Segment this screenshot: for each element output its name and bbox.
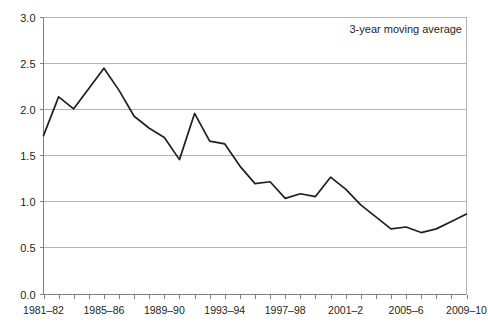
chart-background [0, 0, 488, 330]
y-axis-label-2.0: 2.0 [20, 104, 35, 116]
x-axis-label-2009–10: 2009–10 [446, 304, 487, 316]
y-axis-label-1.0: 1.0 [20, 196, 35, 208]
x-axis-label-2001–2: 2001–2 [328, 304, 363, 316]
y-axis-label-2.5: 2.5 [20, 58, 35, 70]
chart-container: 0.00.51.01.52.02.53.0 1981–821985–861989… [0, 0, 488, 330]
x-axis-label-1993–94: 1993–94 [204, 304, 245, 316]
y-axis-label-3.0: 3.0 [20, 12, 35, 24]
x-axis-label-1997–98: 1997–98 [265, 304, 306, 316]
x-axis-label-2005–6: 2005–6 [389, 304, 424, 316]
moving-average-line-chart: 0.00.51.01.52.02.53.0 1981–821985–861989… [0, 0, 488, 330]
x-axis-label-1989–90: 1989–90 [144, 304, 185, 316]
chart-annotation: 3-year moving average [349, 23, 462, 35]
y-axis-label-1.5: 1.5 [20, 150, 35, 162]
y-axis-label-0.5: 0.5 [20, 242, 35, 254]
x-axis-label-1981–82: 1981–82 [23, 304, 64, 316]
y-axis-label-0.0: 0.0 [20, 289, 35, 301]
x-axis-label-1985–86: 1985–86 [83, 304, 124, 316]
